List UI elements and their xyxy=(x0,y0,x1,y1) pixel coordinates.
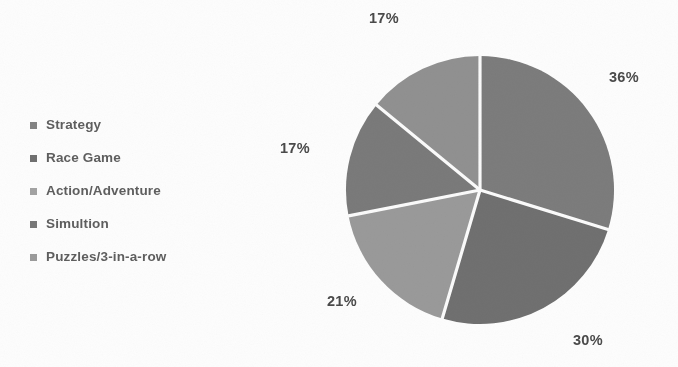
legend-bullet-icon xyxy=(30,122,37,129)
legend-bullet-icon xyxy=(30,254,37,261)
legend-bullet-icon xyxy=(30,188,37,195)
legend-bullet-icon xyxy=(30,155,37,162)
legend-bullet-icon xyxy=(30,221,37,228)
pie-label-race-game-percent: 30% xyxy=(573,332,603,348)
legend-item-label: Strategy xyxy=(46,117,101,132)
pie-label-strategy-percent: 36% xyxy=(609,69,639,85)
pie-chart-screenshot: 36% 30% 21% 17% 17% Strategy Race Game A… xyxy=(0,0,678,367)
legend-item-action-adventure: Action/Adventure xyxy=(30,174,260,207)
pie-label-puzzles-percent: 17% xyxy=(369,10,399,26)
legend-item-puzzles: Puzzles/3-in-a-row xyxy=(30,240,260,273)
legend-item-label: Puzzles/3-in-a-row xyxy=(46,249,166,264)
legend-item-label: Simultion xyxy=(46,216,109,231)
pie-label-simultion-percent: 17% xyxy=(280,140,310,156)
legend-item-race-game: Race Game xyxy=(30,141,260,174)
pie-label-action-adventure-percent: 21% xyxy=(327,293,357,309)
legend-item-simultion: Simultion xyxy=(30,207,260,240)
chart-legend: Strategy Race Game Action/Adventure Simu… xyxy=(30,108,260,273)
legend-item-label: Action/Adventure xyxy=(46,183,161,198)
legend-item-strategy: Strategy xyxy=(30,108,260,141)
legend-item-label: Race Game xyxy=(46,150,121,165)
